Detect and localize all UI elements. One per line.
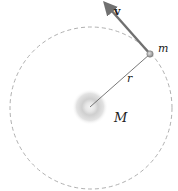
radius-label: r bbox=[127, 73, 132, 84]
velocity-label: v bbox=[114, 6, 120, 17]
diagram-canvas bbox=[0, 0, 178, 191]
satellite-mass bbox=[147, 51, 153, 57]
central-mass-label: M bbox=[114, 111, 127, 124]
orbit-diagram: v m r M bbox=[0, 0, 178, 191]
radius-line bbox=[90, 54, 150, 107]
small-mass-label: m bbox=[158, 43, 168, 54]
